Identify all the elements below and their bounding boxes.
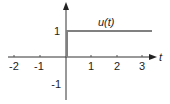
x-tick-label-neg2: -2 <box>9 60 19 72</box>
function-label: u(t) <box>98 16 115 28</box>
x-tick-label-1: 1 <box>88 60 94 72</box>
t-axis-arrow-icon <box>149 54 157 60</box>
t-axis-label: t <box>159 51 163 63</box>
x-tick-label-2: 2 <box>114 60 120 72</box>
y-tick-label-1: 1 <box>54 25 60 37</box>
unit-step-plot: u(t) t -2 -1 1 2 3 1 -1 <box>0 0 170 104</box>
x-tick-label-3: 3 <box>139 60 145 72</box>
y-tick-label-neg1: -1 <box>51 78 61 90</box>
x-tick-label-neg1: -1 <box>34 60 44 72</box>
y-axis-arrow-icon <box>63 2 69 10</box>
